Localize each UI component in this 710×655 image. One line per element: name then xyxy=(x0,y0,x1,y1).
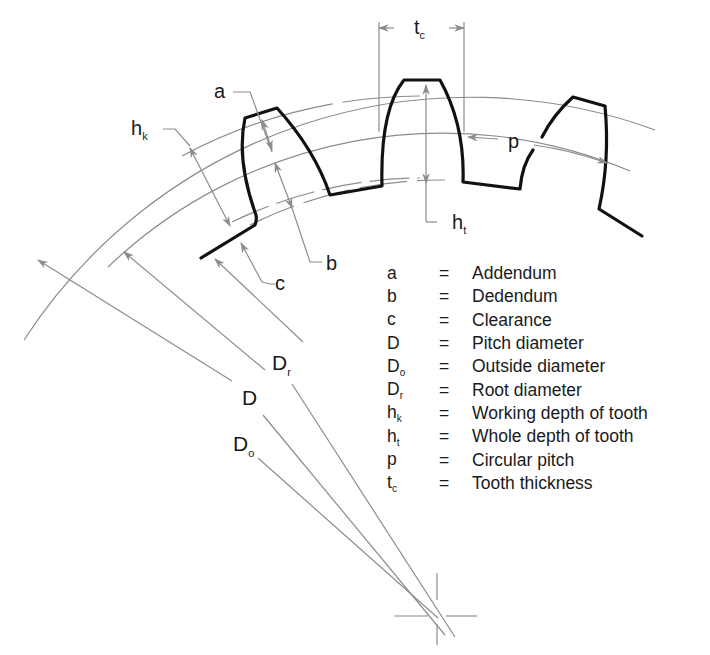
label-Do: Do xyxy=(233,432,254,459)
legend-row-outside-diameter: Do = Outside diameter xyxy=(387,355,648,378)
legend-equals: = xyxy=(439,333,472,354)
legend-meaning: Working depth of tooth xyxy=(472,403,648,424)
legend-meaning: Outside diameter xyxy=(472,356,605,377)
legend-meaning: Pitch diameter xyxy=(472,333,584,354)
gear-teeth xyxy=(201,80,642,258)
legend-symbol: b xyxy=(387,286,439,308)
legend-meaning: Root diameter xyxy=(472,380,582,401)
legend-equals: = xyxy=(439,426,472,447)
legend-equals: = xyxy=(439,356,472,377)
legend-row-dedendum: b = Dedendum xyxy=(387,285,648,308)
label-p: p xyxy=(508,130,519,152)
legend-row-whole-depth: ht = Whole depth of tooth xyxy=(387,425,648,448)
legend-meaning: Clearance xyxy=(472,310,552,331)
gear-tooth-profile xyxy=(201,80,533,258)
legend-symbol: a xyxy=(387,263,439,285)
legend-row-clearance: c = Clearance xyxy=(387,309,648,332)
label-a: a xyxy=(214,80,226,102)
legend-equals: = xyxy=(439,286,472,307)
legend-meaning: Dedendum xyxy=(472,286,558,307)
legend-symbol: ht xyxy=(387,426,439,448)
legend-equals: = xyxy=(439,403,472,424)
legend-equals: = xyxy=(439,380,472,401)
legend: a = Addendum b = Dedendum c = Clearance … xyxy=(387,262,648,495)
legend-symbol: D xyxy=(387,333,439,355)
legend-symbol: hk xyxy=(387,402,439,424)
legend-symbol: p xyxy=(387,449,439,471)
label-D: D xyxy=(242,386,257,409)
label-hk: hk xyxy=(131,117,148,142)
legend-row-pitch-diameter: D = Pitch diameter xyxy=(387,332,648,355)
label-Dr: Dr xyxy=(272,351,291,378)
label-b: b xyxy=(326,252,337,274)
legend-meaning: Addendum xyxy=(472,263,557,284)
legend-symbol: Dr xyxy=(387,379,439,401)
label-tc: tc xyxy=(414,16,426,41)
label-ht: ht xyxy=(452,211,466,236)
legend-row-root-diameter: Dr = Root diameter xyxy=(387,378,648,401)
legend-row-tooth-thickness: tc = Tooth thickness xyxy=(387,472,648,495)
legend-equals: = xyxy=(439,263,472,284)
legend-symbol: c xyxy=(387,309,439,331)
legend-equals: = xyxy=(439,450,472,471)
legend-equals: = xyxy=(439,310,472,331)
legend-row-working-depth: hk = Working depth of tooth xyxy=(387,402,648,425)
legend-row-addendum: a = Addendum xyxy=(387,262,648,285)
legend-meaning: Circular pitch xyxy=(472,450,574,471)
legend-row-circular-pitch: p = Circular pitch xyxy=(387,448,648,471)
legend-meaning: Tooth thickness xyxy=(472,473,593,494)
legend-equals: = xyxy=(439,473,472,494)
legend-meaning: Whole depth of tooth xyxy=(472,426,634,447)
gear-tooth-profile-right xyxy=(542,97,642,236)
legend-symbol: tc xyxy=(387,472,439,494)
legend-symbol: Do xyxy=(387,356,439,378)
label-c: c xyxy=(275,272,285,294)
